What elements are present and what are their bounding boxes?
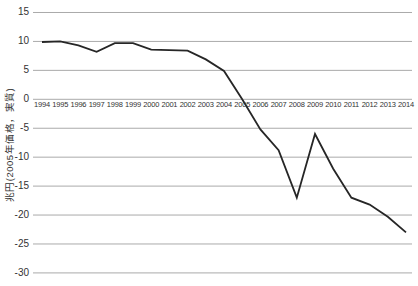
y-tick-label: -15 — [3, 180, 29, 192]
y-tick-label: -30 — [3, 267, 29, 279]
y-tick-label: -10 — [3, 151, 29, 163]
y-tick-label: 0 — [3, 93, 29, 105]
y-tick-label: -25 — [3, 238, 29, 250]
chart-figure: 兆円(2005年価格，実質) 151050-5-10-15-20-25-30 1… — [0, 0, 418, 286]
y-tick-label: 5 — [3, 64, 29, 76]
y-tick-label: -20 — [3, 209, 29, 221]
x-tick-label: 2014 — [393, 100, 418, 109]
y-tick-label: 10 — [3, 35, 29, 47]
y-tick-label: -5 — [3, 122, 29, 134]
chart-svg — [0, 0, 418, 286]
y-tick-label: 15 — [3, 6, 29, 18]
